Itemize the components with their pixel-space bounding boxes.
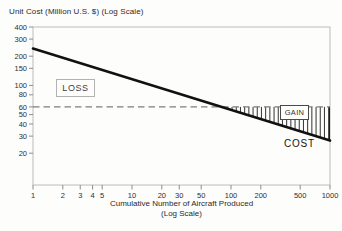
y-axis-ticks: 400300200150100806050403020	[14, 23, 33, 158]
learning-curve-chart: 1234510203050100200500100040030020015010…	[0, 0, 342, 231]
gain-region-label: GAIN	[280, 105, 309, 120]
svg-text:400: 400	[14, 23, 27, 32]
x-axis-ticks: 12345102030501002005001000	[31, 185, 338, 200]
svg-text:30: 30	[19, 132, 27, 141]
cost-line-label: COST	[284, 138, 315, 149]
chart-title: Unit Cost (Million U.S. $) (Log Scale)	[9, 7, 144, 16]
svg-text:100: 100	[14, 81, 27, 90]
svg-text:80: 80	[19, 90, 27, 99]
x-axis-label: Cumulative Number of Aircraft Produced	[33, 199, 330, 208]
x-axis-label-scale-note: (Log Scale)	[33, 209, 330, 218]
svg-text:40: 40	[19, 120, 27, 129]
svg-text:50: 50	[19, 110, 27, 119]
svg-text:300: 300	[14, 35, 27, 44]
svg-text:150: 150	[14, 64, 27, 73]
loss-region-label: LOSS	[56, 79, 95, 97]
svg-text:200: 200	[14, 52, 27, 61]
svg-text:20: 20	[19, 149, 27, 158]
